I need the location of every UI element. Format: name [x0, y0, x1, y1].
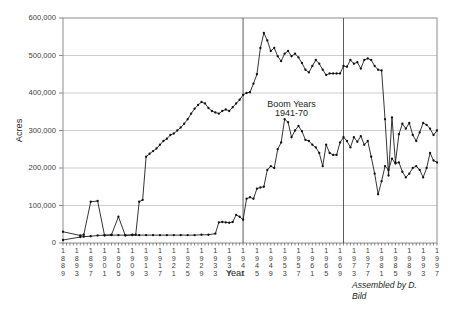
data-point: [432, 159, 434, 161]
data-point: [283, 52, 285, 54]
data-point: [370, 59, 372, 61]
data-point: [391, 157, 393, 159]
data-point: [384, 165, 386, 167]
data-point: [232, 106, 234, 108]
x-axis-tick-label: 1889: [61, 246, 65, 278]
data-point: [432, 134, 434, 136]
data-point: [266, 169, 268, 171]
x-axis-tick-label: 1981: [380, 246, 384, 278]
data-point: [96, 234, 98, 236]
credit-text: Bild: [352, 291, 367, 301]
x-axis-tick-label: 1901: [103, 246, 107, 278]
x-axis-tick-label: 1977: [366, 246, 370, 278]
data-point: [242, 219, 244, 221]
data-point: [221, 110, 223, 112]
data-point: [325, 74, 327, 76]
data-point: [422, 176, 424, 178]
data-point: [387, 169, 389, 171]
x-axis-tick-label: 1985: [393, 246, 397, 278]
y-axis-tick-label: 500,000: [29, 51, 56, 60]
data-point: [436, 161, 438, 163]
data-point: [405, 127, 407, 129]
data-point: [124, 234, 126, 236]
data-point: [232, 221, 234, 223]
data-point: [187, 118, 189, 120]
data-point: [425, 124, 427, 126]
data-point: [322, 69, 324, 71]
data-point: [148, 153, 150, 155]
x-axis-tick-label: 1957: [296, 246, 300, 278]
data-point: [193, 234, 195, 236]
x-axis-tick-label: 1961: [310, 246, 314, 278]
y-axis-tick-label: 400,000: [29, 88, 56, 97]
data-point: [297, 56, 299, 58]
data-point: [339, 141, 341, 143]
data-point: [166, 234, 168, 236]
data-point: [335, 154, 337, 156]
data-point: [200, 101, 202, 103]
data-point: [377, 193, 379, 195]
data-point: [214, 111, 216, 113]
data-point: [301, 130, 303, 132]
data-point: [277, 148, 279, 150]
data-point: [117, 234, 119, 236]
data-point: [294, 129, 296, 131]
data-point: [245, 198, 247, 200]
data-point: [304, 69, 306, 71]
x-axis-tick-label: 1945: [255, 246, 259, 278]
data-point: [363, 144, 365, 146]
data-point: [235, 214, 237, 216]
data-point: [225, 221, 227, 223]
data-point: [380, 69, 382, 71]
data-point: [96, 200, 98, 202]
data-point: [218, 112, 220, 114]
data-point: [346, 66, 348, 68]
data-point: [238, 99, 240, 101]
x-axis-tick-label: 1989: [407, 246, 411, 278]
acres-by-year-chart: 0100,000200,000300,000400,000500,000600,…: [0, 0, 456, 318]
data-point: [318, 152, 320, 154]
data-point: [380, 180, 382, 182]
data-point: [346, 140, 348, 142]
data-point: [297, 125, 299, 127]
data-point: [415, 140, 417, 142]
data-point: [207, 107, 209, 109]
y-axis-tick-label: 300,000: [29, 126, 56, 135]
data-point: [200, 234, 202, 236]
data-point: [90, 235, 92, 237]
series-line: [63, 119, 437, 240]
data-point: [162, 140, 164, 142]
data-point: [259, 47, 261, 49]
data-point: [187, 234, 189, 236]
data-point: [238, 216, 240, 218]
x-axis-tick-label: 1933: [213, 246, 217, 278]
data-point: [131, 234, 133, 236]
x-axis-tick-label: 1965: [324, 246, 328, 278]
data-point: [273, 167, 275, 169]
x-axis-tick-label: 1997: [435, 246, 439, 278]
data-point: [225, 108, 227, 110]
data-point: [197, 104, 199, 106]
y-axis-tick-label: 600,000: [29, 13, 56, 22]
data-point: [311, 65, 313, 67]
data-point: [342, 136, 344, 138]
data-point: [328, 152, 330, 154]
data-point: [349, 59, 351, 61]
x-axis-tick-label: 1893: [75, 246, 79, 278]
data-point: [419, 169, 421, 171]
data-point: [79, 236, 81, 238]
data-point: [315, 146, 317, 148]
data-point: [405, 176, 407, 178]
data-point: [419, 131, 421, 133]
data-series-lower-series: [62, 118, 438, 241]
series-line: [63, 33, 437, 236]
data-point: [370, 156, 372, 158]
data-point: [394, 162, 396, 164]
data-point: [218, 221, 220, 223]
data-point: [356, 61, 358, 63]
x-axis-tick-label: 1909: [130, 246, 134, 278]
data-point: [207, 234, 209, 236]
data-point: [363, 59, 365, 61]
data-point: [377, 69, 379, 71]
data-point: [256, 73, 258, 75]
